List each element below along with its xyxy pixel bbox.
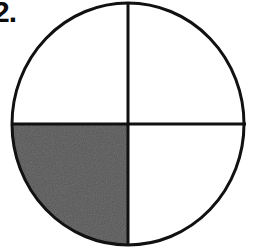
fraction-circle-figure [0, 0, 256, 250]
fraction-circle-graphic [0, 0, 256, 250]
fraction-circle-worksheet-item: 2. [0, 0, 256, 250]
bottom-left-quadrant-texture [0, 124, 128, 250]
top-right-quadrant [128, 0, 256, 124]
top-left-quadrant [0, 0, 128, 124]
bottom-right-quadrant [128, 124, 256, 250]
